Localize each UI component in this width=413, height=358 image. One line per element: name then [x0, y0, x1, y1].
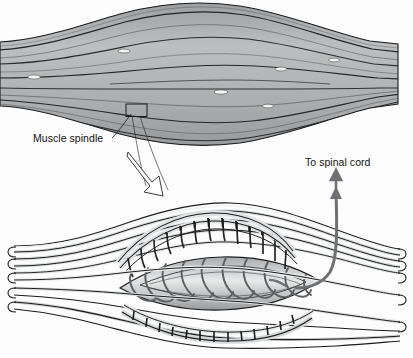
spindle-marker — [214, 90, 228, 94]
figure-root: Muscle spindle To spinal cord — [0, 0, 413, 358]
muscle-spindle-label: Muscle spindle — [33, 132, 103, 144]
spindle-marker — [262, 104, 273, 108]
spindle-marker — [118, 49, 130, 53]
spindle-marker — [28, 75, 41, 79]
muscle-spindle-diagram: Muscle spindle To spinal cord — [0, 0, 413, 358]
to-spinal-cord-label: To spinal cord — [305, 156, 371, 168]
spindle-marker — [275, 67, 287, 71]
spindle-marker — [328, 58, 339, 62]
